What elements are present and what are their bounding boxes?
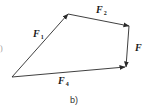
label-f1: F1 <box>33 29 44 40</box>
label-f1-base: F <box>33 28 40 39</box>
vector-f3-arrow <box>126 26 129 67</box>
label-f1-sub: 1 <box>41 34 44 40</box>
label-f4-base: F <box>58 75 65 86</box>
vector-f1-arrow <box>12 14 68 77</box>
label-f2-base: F <box>96 4 103 15</box>
label-f3: F <box>135 43 142 53</box>
partial-edge-glyph: ) <box>0 45 3 53</box>
label-f2-sub: 2 <box>104 10 107 16</box>
label-f4: F4 <box>58 76 69 87</box>
figure-caption: b) <box>70 96 78 105</box>
label-f2: F2 <box>96 5 107 16</box>
label-f3-base: F <box>135 42 142 53</box>
label-f4-sub: 4 <box>66 81 69 87</box>
vector-diagram <box>0 0 143 108</box>
